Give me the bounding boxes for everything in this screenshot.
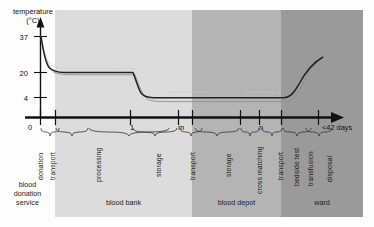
figure-root: blood donation service blood bank blood … bbox=[0, 0, 374, 227]
x-axis bbox=[25, 110, 344, 125]
step-braces bbox=[41, 128, 332, 136]
series-upper-tolerance bbox=[41, 36, 286, 98]
y-axis bbox=[34, 17, 47, 118]
chart-plot bbox=[0, 0, 374, 227]
series-blood-temperature bbox=[41, 36, 323, 98]
